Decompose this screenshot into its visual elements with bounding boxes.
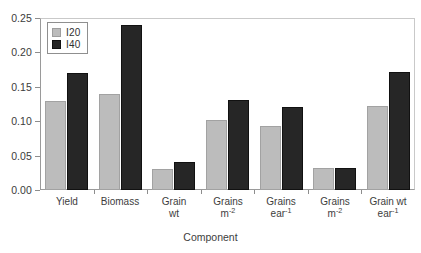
x-tick-mark <box>201 190 202 194</box>
bar-i40-2 <box>174 162 195 190</box>
bar-i20-5 <box>313 168 334 190</box>
bar-i40-3 <box>228 100 249 190</box>
y-tick-mark <box>35 18 40 19</box>
legend-swatch-i40-icon <box>52 40 61 49</box>
bar-i20-0 <box>45 101 66 190</box>
x-tick-mark <box>308 190 309 194</box>
legend-label-i40: I40 <box>66 39 81 50</box>
bar-i40-4 <box>282 107 303 190</box>
x-category-label: Grainsm-2 <box>320 196 349 219</box>
x-category-label: Biomass <box>101 196 139 208</box>
x-tick-mark <box>147 190 148 194</box>
bar-i40-1 <box>121 25 142 190</box>
legend-swatch-i20-icon <box>52 28 61 37</box>
legend-item-i40: I40 <box>52 38 81 50</box>
x-category-label: Grainsear-1 <box>266 196 295 219</box>
y-tick-mark <box>35 52 40 53</box>
bar-i20-3 <box>206 120 227 190</box>
bar-i40-5 <box>335 168 356 190</box>
x-tick-mark <box>361 190 362 194</box>
legend-item-i20: I20 <box>52 26 81 38</box>
x-tick-mark <box>254 190 255 194</box>
y-tick-mark <box>35 156 40 157</box>
y-tick-mark <box>35 87 40 88</box>
bar-chart: 0.000.050.100.150.200.25 I20 I40 Compone… <box>0 0 421 253</box>
x-category-label: Yield <box>56 196 78 208</box>
legend-label-i20: I20 <box>66 27 81 38</box>
bar-i20-4 <box>260 126 281 190</box>
bar-i20-6 <box>367 106 388 190</box>
bar-i20-1 <box>99 94 120 190</box>
y-tick-mark <box>35 121 40 122</box>
bar-i40-0 <box>67 73 88 190</box>
x-axis-title: Component <box>0 231 421 243</box>
chart-legend: I20 I40 <box>47 22 88 54</box>
x-tick-mark <box>94 190 95 194</box>
bar-i20-2 <box>152 169 173 190</box>
y-tick-mark <box>35 190 40 191</box>
x-category-label: Grain wtear-1 <box>369 196 406 219</box>
bar-i40-6 <box>389 72 410 190</box>
x-category-label: Grainwt <box>162 196 186 219</box>
x-category-label: Grainsm-2 <box>213 196 242 219</box>
